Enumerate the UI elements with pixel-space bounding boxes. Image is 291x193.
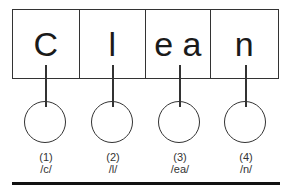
- sound-phoneme: /n/: [216, 163, 276, 175]
- sound-index: (4): [216, 151, 276, 163]
- sound-index: (2): [83, 151, 143, 163]
- sound-label-2: (2) /l/: [83, 151, 143, 175]
- sound-label-4: (4) /n/: [216, 151, 276, 175]
- sound-circle-2: [91, 101, 133, 143]
- sound-circle-3: [158, 101, 200, 143]
- sound-index: (3): [150, 151, 210, 163]
- sound-phoneme: /ea/: [150, 163, 210, 175]
- sound-phoneme: /l/: [83, 163, 143, 175]
- sound-circle-1: [24, 101, 66, 143]
- sound-label-3: (3) /ea/: [150, 151, 210, 175]
- sound-index: (1): [16, 151, 76, 163]
- sound-label-1: (1) /c/: [16, 151, 76, 175]
- letter-boxes: C l e a n: [12, 9, 279, 79]
- sound-phoneme: /c/: [16, 163, 76, 175]
- sound-circle-4: [224, 101, 266, 143]
- bottom-rule: [12, 182, 280, 185]
